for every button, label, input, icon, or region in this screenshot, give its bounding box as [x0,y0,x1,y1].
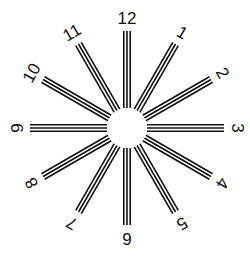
spoke-6 [124,148,130,225]
hour-label-5: 5 [173,213,191,234]
hour-label-6: 6 [122,229,131,248]
spoke-line [144,138,211,177]
center-hub [107,108,147,148]
spoke-line [41,82,108,121]
hour-label-7: 7 [63,213,81,234]
spoke-3 [147,125,224,131]
hour-label-8: 8 [21,174,42,192]
spoke-line [146,135,213,174]
spoke-line [79,44,118,111]
spoke-line [81,42,120,109]
spoke-line [43,80,110,119]
hour-label-1: 1 [173,22,191,43]
spoke-12 [124,31,130,108]
spoke-line [144,80,211,119]
hour-label-10: 10 [19,60,45,86]
astigmatism-clock-chart: 121234567891011 [0,0,250,256]
spoke-line [43,138,110,177]
spoke-line [137,44,176,111]
hour-label-3: 3 [228,123,247,132]
hour-label-9: 9 [8,123,27,132]
spoke-line [134,42,173,109]
spoke-line [146,82,213,121]
spoke-9 [30,125,107,131]
hour-label-4: 4 [212,174,233,192]
spoke-line [41,135,108,174]
spoke-line [81,147,120,214]
spoke-line [137,145,176,212]
hour-label-12: 12 [118,9,137,28]
hour-label-2: 2 [212,64,233,82]
spoke-line [134,147,173,214]
spoke-line [79,145,118,212]
hour-label-11: 11 [60,20,85,45]
